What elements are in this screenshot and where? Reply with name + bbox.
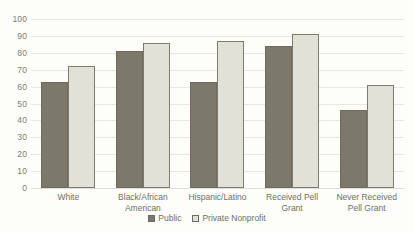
bar-public bbox=[265, 46, 292, 188]
bar-group bbox=[106, 19, 181, 188]
bar-group bbox=[31, 19, 106, 188]
bar-private-nonprofit bbox=[292, 34, 319, 188]
y-axis-tick-label: 70 bbox=[3, 66, 27, 75]
y-axis-tick-label: 30 bbox=[3, 133, 27, 142]
bar-chart: 1009080706050403020100 WhiteBlack/Africa… bbox=[0, 0, 414, 233]
y-axis-tick-label: 0 bbox=[3, 184, 27, 193]
x-axis-category-label: Never Received Pell Grant bbox=[329, 192, 404, 213]
chart-legend: PublicPrivate Nonprofit bbox=[0, 214, 414, 223]
y-axis-tick-label: 80 bbox=[3, 49, 27, 58]
y-axis-tick-label: 10 bbox=[3, 167, 27, 176]
bar-groups bbox=[31, 19, 404, 188]
bar-private-nonprofit bbox=[68, 66, 95, 188]
x-axis-category-label: Hispanic/Latino bbox=[180, 192, 255, 213]
bar-public bbox=[116, 51, 143, 188]
bar-public bbox=[190, 82, 217, 188]
bar-public bbox=[340, 110, 367, 188]
bar-group bbox=[180, 19, 255, 188]
bar-public bbox=[41, 82, 68, 188]
legend-swatch-icon bbox=[192, 215, 199, 222]
y-axis-tick-label: 100 bbox=[3, 15, 27, 24]
legend-swatch-icon bbox=[148, 215, 155, 222]
legend-item[interactable]: Public bbox=[148, 214, 181, 223]
bar-group bbox=[255, 19, 330, 188]
bar-private-nonprofit bbox=[217, 41, 244, 188]
x-axis-category-label: White bbox=[31, 192, 106, 213]
x-axis-category-labels: WhiteBlack/African AmericanHispanic/Lati… bbox=[31, 192, 404, 213]
y-axis-tick-label: 90 bbox=[3, 32, 27, 41]
x-axis-category-label: Received Pell Grant bbox=[255, 192, 330, 213]
bar-private-nonprofit bbox=[143, 43, 170, 188]
legend-item[interactable]: Private Nonprofit bbox=[192, 214, 265, 223]
legend-item-label: Private Nonprofit bbox=[202, 214, 265, 223]
y-axis-tick-label: 60 bbox=[3, 83, 27, 92]
bar-group bbox=[329, 19, 404, 188]
y-axis-tick-label: 40 bbox=[3, 116, 27, 125]
y-axis-tick-label: 20 bbox=[3, 150, 27, 159]
bar-private-nonprofit bbox=[367, 85, 394, 188]
legend-item-label: Public bbox=[158, 214, 181, 223]
gridline bbox=[31, 188, 404, 189]
y-axis-tick-label: 50 bbox=[3, 100, 27, 109]
x-axis-category-label: Black/African American bbox=[106, 192, 181, 213]
